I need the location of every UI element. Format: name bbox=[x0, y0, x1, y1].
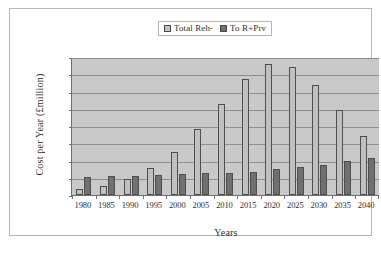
x-axis-tick-label: 2030 bbox=[307, 201, 331, 210]
x-axis-tick-mark bbox=[166, 195, 167, 199]
bar-group bbox=[332, 58, 356, 195]
x-axis-tick-label: 2040 bbox=[354, 201, 378, 210]
bar-2030-series-0 bbox=[312, 85, 319, 195]
x-axis-title: Years bbox=[68, 227, 381, 238]
x-axis-tick-mark bbox=[378, 195, 379, 199]
x-axis-tick-label: 2015 bbox=[236, 201, 260, 210]
bar-2020-series-0 bbox=[265, 64, 272, 195]
bar-2025-series-0 bbox=[289, 67, 296, 196]
bar-2005-series-0 bbox=[194, 129, 201, 195]
bar-2030-series-1 bbox=[320, 165, 327, 195]
chart-figure: Total Reh- To R+Prv Cost per Year (£mill… bbox=[0, 0, 381, 254]
x-axis-tick-mark bbox=[332, 195, 333, 199]
bar-2015-series-0 bbox=[242, 79, 249, 195]
x-axis-tick-mark bbox=[72, 195, 73, 199]
x-axis-tick-mark bbox=[143, 195, 144, 199]
figure-frame: Total Reh- To R+Prv Cost per Year (£mill… bbox=[9, 8, 372, 236]
bar-group bbox=[96, 58, 120, 195]
bar-1990-series-0 bbox=[124, 179, 131, 195]
bar-2005-series-1 bbox=[202, 173, 209, 195]
x-axis-tick-mark bbox=[190, 195, 191, 199]
x-axis-tick-mark bbox=[214, 195, 215, 199]
bar-1980-series-0 bbox=[76, 189, 83, 195]
bar-2010-series-0 bbox=[218, 104, 225, 195]
x-axis-tick-mark bbox=[261, 195, 262, 199]
x-axis-tick-label: 1980 bbox=[71, 201, 95, 210]
y-axis-title: Cost per Year (£million) bbox=[34, 50, 45, 200]
bar-2020-series-1 bbox=[273, 169, 280, 195]
bar-group bbox=[72, 58, 96, 195]
bar-group bbox=[355, 58, 379, 195]
x-axis-tick-mark bbox=[96, 195, 97, 199]
bar-group bbox=[261, 58, 285, 195]
bar-group bbox=[190, 58, 214, 195]
bar-group bbox=[119, 58, 143, 195]
x-axis-tick-mark bbox=[119, 195, 120, 199]
bar-2035-series-0 bbox=[336, 110, 343, 195]
bar-2015-series-1 bbox=[250, 172, 257, 195]
x-axis-tick-label: 2010 bbox=[213, 201, 237, 210]
x-axis-tick-mark bbox=[355, 195, 356, 199]
x-axis-tick-label: 2005 bbox=[189, 201, 213, 210]
bar-1990-series-1 bbox=[132, 176, 139, 195]
bar-group bbox=[284, 58, 308, 195]
bar-group bbox=[166, 58, 190, 195]
bar-2000-series-0 bbox=[171, 152, 178, 195]
bar-2035-series-1 bbox=[344, 161, 351, 195]
bar-2040-series-1 bbox=[368, 158, 375, 195]
plot-area: 160140120100806040200 bbox=[71, 58, 379, 196]
legend-entry-total-reh: Total Reh- bbox=[164, 24, 213, 33]
bar-groups bbox=[72, 58, 379, 195]
x-axis-tick-label: 2035 bbox=[331, 201, 355, 210]
x-axis-tick-mark bbox=[284, 195, 285, 199]
bar-1980-series-1 bbox=[84, 177, 91, 195]
legend-label-total-reh: Total Reh- bbox=[174, 24, 213, 33]
x-axis-tick-label: 2000 bbox=[165, 201, 189, 210]
x-axis-tick-labels: 1980198519901995200020052010201520202025… bbox=[71, 201, 378, 210]
x-axis-tick-label: 1995 bbox=[142, 201, 166, 210]
bar-2000-series-1 bbox=[179, 174, 186, 195]
bar-1985-series-1 bbox=[108, 176, 115, 195]
bar-2025-series-1 bbox=[297, 167, 304, 195]
x-axis-tick-label: 2020 bbox=[260, 201, 284, 210]
bar-2010-series-1 bbox=[226, 173, 233, 195]
legend-swatch-dark-icon bbox=[220, 25, 227, 32]
x-axis-tick-label: 1985 bbox=[95, 201, 119, 210]
bar-group bbox=[143, 58, 167, 195]
bar-1995-series-0 bbox=[147, 168, 154, 195]
bar-2040-series-0 bbox=[360, 136, 367, 196]
chart-legend: Total Reh- To R+Prv bbox=[158, 21, 272, 36]
legend-entry-to-r-prv: To R+Prv bbox=[220, 24, 266, 33]
bar-group bbox=[237, 58, 261, 195]
legend-swatch-light-icon bbox=[164, 25, 171, 32]
bar-group bbox=[308, 58, 332, 195]
bar-1995-series-1 bbox=[155, 175, 162, 195]
legend-label-to-r-prv: To R+Prv bbox=[230, 24, 266, 33]
x-axis-tick-mark bbox=[308, 195, 309, 199]
x-axis-tick-label: 2025 bbox=[283, 201, 307, 210]
x-axis-tick-label: 1990 bbox=[118, 201, 142, 210]
bar-1985-series-0 bbox=[100, 186, 107, 195]
x-axis-tick-mark bbox=[237, 195, 238, 199]
bar-group bbox=[214, 58, 238, 195]
